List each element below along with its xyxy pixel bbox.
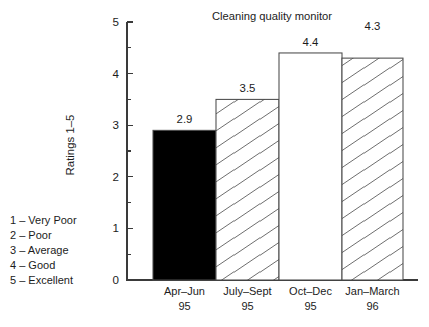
value-label-oct-dec-95: 4.4 xyxy=(303,36,319,48)
chart-container: Cleaning quality monitor Ratings 1–5 xyxy=(0,0,429,327)
bar-chart: Cleaning quality monitor Ratings 1–5 xyxy=(0,0,429,327)
bar-oct-dec-95[interactable] xyxy=(279,53,342,280)
bar-july-sept-95[interactable] xyxy=(216,99,279,280)
x-category-label-0-line1: Apr–Jun xyxy=(164,285,205,297)
x-category-label-1-line2: 95 xyxy=(241,300,253,312)
legend-entry-3: 3 – Average xyxy=(10,244,69,256)
y-tick-label-2: 2 xyxy=(113,170,119,183)
x-category-label-0-line2: 95 xyxy=(178,300,190,312)
y-axis-label: Ratings 1–5 xyxy=(64,115,76,176)
chart-title: Cleaning quality monitor xyxy=(212,10,332,22)
x-category-label-3-line1: Jan–March xyxy=(345,285,399,297)
y-axis-title-group: Ratings 1–5 xyxy=(64,115,76,176)
value-label-jan-march-96: 4.3 xyxy=(365,20,381,32)
x-category-label-2-line1: Oct–Dec xyxy=(289,285,332,297)
value-label-july-sept-95: 3.5 xyxy=(240,82,256,94)
x-category-label-1-line1: July–Sept xyxy=(223,285,271,297)
rating-scale-legend: 1 – Very Poor 2 – Poor 3 – Average 4 – G… xyxy=(10,214,77,286)
legend-entry-2: 2 – Poor xyxy=(10,229,52,241)
y-tick-label-3: 3 xyxy=(113,118,119,131)
y-tick-label-0: 0 xyxy=(113,273,119,286)
value-label-apr-jun-95: 2.9 xyxy=(177,113,193,125)
plot-title-group: Cleaning quality monitor xyxy=(212,10,332,22)
bar-apr-jun-95[interactable] xyxy=(153,130,216,280)
x-category-label-3-line2: 96 xyxy=(366,300,378,312)
legend-entry-4: 4 – Good xyxy=(10,259,55,271)
y-tick-label-5: 5 xyxy=(113,15,119,28)
y-tick-label-1: 1 xyxy=(113,221,119,234)
legend-entry-1: 1 – Very Poor xyxy=(10,214,77,226)
y-tick-label-4: 4 xyxy=(113,67,120,80)
x-category-label-2-line2: 95 xyxy=(304,300,316,312)
bar-jan-march-96[interactable] xyxy=(342,58,403,280)
legend-entry-5: 5 – Excellent xyxy=(10,274,73,286)
